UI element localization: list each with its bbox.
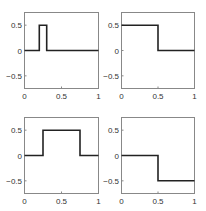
y-tick-label: −0.5 — [103, 177, 119, 186]
y-tick-label: −0.5 — [6, 177, 22, 186]
y-tick-label: −0.5 — [103, 72, 119, 81]
x-tick-label: 0 — [22, 92, 27, 101]
x-tick-label: 0.5 — [56, 92, 68, 101]
x-tick-label: 1 — [192, 197, 197, 206]
x-tick-label: 1 — [96, 92, 101, 101]
y-tick-label: 0 — [115, 47, 120, 56]
y-tick-label: −0.5 — [6, 72, 22, 81]
chart-grid: 00.510.50−0.500.510.50−0.500.510.50−0.50… — [0, 0, 206, 211]
y-tick-label: 0.5 — [11, 21, 23, 30]
x-tick-label: 0.5 — [152, 92, 164, 101]
x-tick-label: 0 — [119, 92, 124, 101]
x-tick-label: 0 — [22, 197, 27, 206]
subplot-2: 00.510.50−0.5 — [103, 13, 197, 102]
x-tick-label: 1 — [96, 197, 101, 206]
x-tick-label: 0.5 — [152, 197, 164, 206]
y-tick-label: 0 — [18, 47, 23, 56]
x-tick-label: 0.5 — [56, 197, 68, 206]
y-tick-label: 0.5 — [108, 21, 120, 30]
subplot-4: 00.510.50−0.5 — [103, 118, 197, 207]
y-tick-label: 0 — [18, 152, 23, 161]
subplot-1: 00.510.50−0.5 — [6, 13, 101, 102]
y-tick-label: 0.5 — [11, 126, 23, 135]
y-tick-label: 0.5 — [108, 126, 120, 135]
x-tick-label: 1 — [192, 92, 197, 101]
x-tick-label: 0 — [119, 197, 124, 206]
subplot-3: 00.510.50−0.5 — [6, 118, 101, 207]
y-tick-label: 0 — [115, 152, 120, 161]
